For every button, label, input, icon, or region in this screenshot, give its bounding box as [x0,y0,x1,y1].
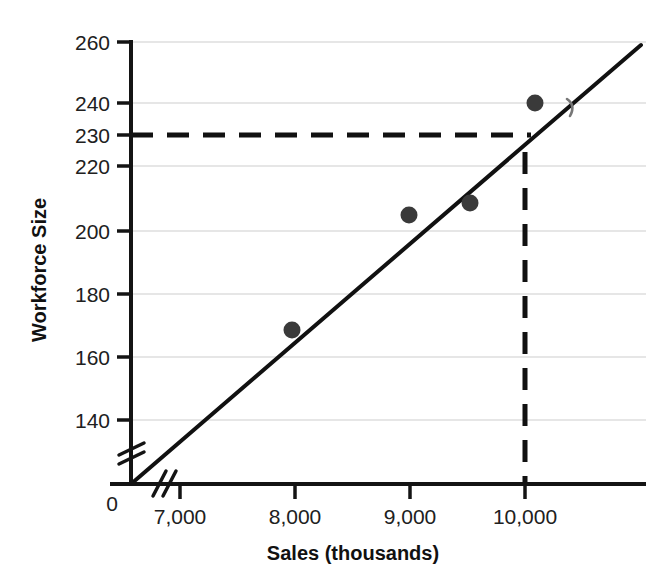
chart-canvas: 260 240 230 220 200 180 160 140 0 7,000 … [0,0,672,581]
x-tick-label-10000: 10,000 [493,505,557,528]
y-tick-label-230: 230 [75,124,110,147]
x-tick-label-9000: 9,000 [384,505,437,528]
y-tick-label-200: 200 [75,220,110,243]
data-point [462,195,479,212]
data-point [401,207,418,224]
y-tick-label-220: 220 [75,155,110,178]
y-tick-label-260: 260 [75,31,110,54]
x-tick-label-8000: 8,000 [269,505,322,528]
data-point [527,95,544,112]
y-tick-label-160: 160 [75,346,110,369]
y-axis-title: Workforce Size [28,198,50,342]
x-axis-title: Sales (thousands) [267,542,439,564]
data-point [284,322,301,339]
y-tick-label-140: 140 [75,409,110,432]
x-tick-label-7000: 7,000 [154,505,207,528]
y-tick-label-240: 240 [75,92,110,115]
y-tick-label-180: 180 [75,283,110,306]
y-axis-origin-label: 0 [106,492,118,515]
scatter-plot-figure: 260 240 230 220 200 180 160 140 0 7,000 … [0,0,672,581]
